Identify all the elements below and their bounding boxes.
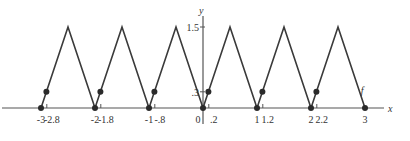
plot-area: xy.31.5-3-2.8-2-1.8-1-.80.211.222.23f (0, 0, 410, 141)
axis-point (38, 105, 44, 111)
x-tick-label: .2 (210, 114, 218, 125)
y-tick-label: .3 (192, 87, 200, 98)
x-tick-label: 2 (309, 114, 314, 125)
axis-point (200, 105, 206, 111)
curve-point (205, 89, 211, 95)
x-tick-label: -.8 (154, 114, 165, 125)
function-label: f (361, 85, 365, 96)
x-tick-label: 1 (255, 114, 260, 125)
curve-point (43, 89, 49, 95)
axis-point (92, 105, 98, 111)
axis-point (254, 105, 260, 111)
curve-point (97, 89, 103, 95)
y-axis-label: y (198, 5, 204, 16)
curve-point (151, 89, 157, 95)
y-tick-label: 1.5 (187, 22, 200, 33)
x-tick-label: -1 (145, 114, 153, 125)
curve-point (313, 89, 319, 95)
x-tick-label: -1.8 (98, 114, 114, 125)
axis-point (308, 105, 314, 111)
curve-point (259, 89, 265, 95)
x-tick-label: 1.2 (262, 114, 275, 125)
tick-labels: xy.31.5-3-2.8-2-1.8-1-.80.211.222.23f (37, 5, 393, 125)
x-tick-label: 2.2 (316, 114, 329, 125)
x-tick-label: 0 (196, 114, 201, 125)
x-tick-label: 3 (363, 114, 368, 125)
axis-point (146, 105, 152, 111)
x-axis-label: x (387, 103, 393, 114)
chart: xy.31.5-3-2.8-2-1.8-1-.80.211.222.23f (0, 0, 410, 141)
x-tick-label: -2.8 (44, 114, 60, 125)
axis-point (362, 105, 368, 111)
